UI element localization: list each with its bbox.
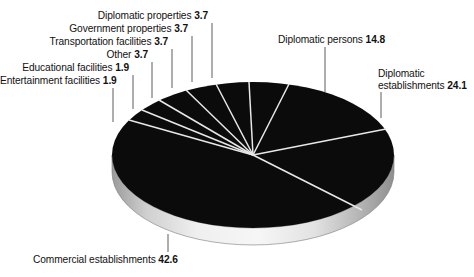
label-value-other: 3.7: [134, 49, 148, 60]
label-name-line1-diplomatic-establishments: Diplomatic: [378, 68, 425, 79]
label-transportation-facilities: Transportation facilities 3.7: [0, 36, 168, 48]
label-name-transportation-facilities: Transportation facilities: [50, 36, 152, 47]
label-value-diplomatic-persons: 14.8: [366, 34, 385, 45]
label-name-other: Other: [106, 49, 131, 60]
label-diplomatic-properties: Diplomatic properties 3.7: [0, 10, 208, 22]
label-name-commercial-establishments: Commercial establishments: [33, 254, 156, 265]
label-value-diplomatic-establishments: 24.1: [447, 80, 466, 91]
label-name-line2-diplomatic-establishments: establishments: [378, 80, 445, 91]
label-educational-facilities: Educational facilities 1.9: [0, 62, 129, 74]
label-value-commercial-establishments: 42.6: [158, 254, 177, 265]
label-name-diplomatic-persons: Diplomatic persons: [278, 34, 363, 45]
label-value-entertainment-facilities: 1.9: [103, 75, 117, 86]
label-name-educational-facilities: Educational facilities: [22, 62, 112, 73]
pie-chart-figure: Diplomatic properties 3.7 Government pro…: [0, 0, 474, 277]
label-value-educational-facilities: 1.9: [115, 62, 129, 73]
label-name-government-properties: Government properties: [69, 23, 171, 34]
label-other: Other 3.7: [0, 49, 148, 61]
label-value-transportation-facilities: 3.7: [154, 36, 168, 47]
label-commercial-establishments: Commercial establishments 42.6: [33, 254, 243, 266]
label-entertainment-facilities: Entertainment facilities 1.9: [0, 75, 109, 87]
label-diplomatic-establishments: Diplomatic establishments 24.1: [378, 68, 474, 91]
label-government-properties: Government properties 3.7: [0, 23, 188, 35]
label-value-government-properties: 3.7: [174, 23, 188, 34]
label-name-entertainment-facilities: Entertainment facilities: [0, 75, 100, 86]
label-diplomatic-persons: Diplomatic persons 14.8: [278, 34, 408, 46]
label-value-diplomatic-properties: 3.7: [194, 10, 208, 21]
label-name-diplomatic-properties: Diplomatic properties: [98, 10, 192, 21]
